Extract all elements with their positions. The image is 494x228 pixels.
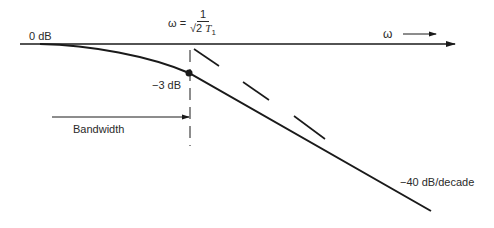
- omega-axis-label: ω: [383, 28, 392, 40]
- bandwidth-label: Bandwidth: [73, 124, 124, 135]
- slope-label: −40 dB/decade: [400, 177, 474, 188]
- formula-sqrt: √2: [190, 22, 202, 34]
- asymptote-dashed-line: [194, 49, 325, 139]
- formula-lhs: ω =: [168, 17, 186, 29]
- formula-fraction: 1 √2 T1: [190, 9, 216, 37]
- minus-3db-label: −3 dB: [152, 80, 181, 91]
- formula-sub: 1: [211, 28, 215, 37]
- corner-frequency-formula: ω = 1 √2 T1: [168, 9, 216, 37]
- formula-denominator: √2 T1: [190, 22, 216, 37]
- bode-diagram: [0, 0, 494, 228]
- asymptote-segment: [243, 82, 269, 100]
- asymptote-segment: [194, 49, 219, 66]
- zero-db-label: 0 dB: [29, 31, 52, 42]
- formula-numerator: 1: [197, 9, 209, 22]
- minus-3db-point: [186, 70, 193, 77]
